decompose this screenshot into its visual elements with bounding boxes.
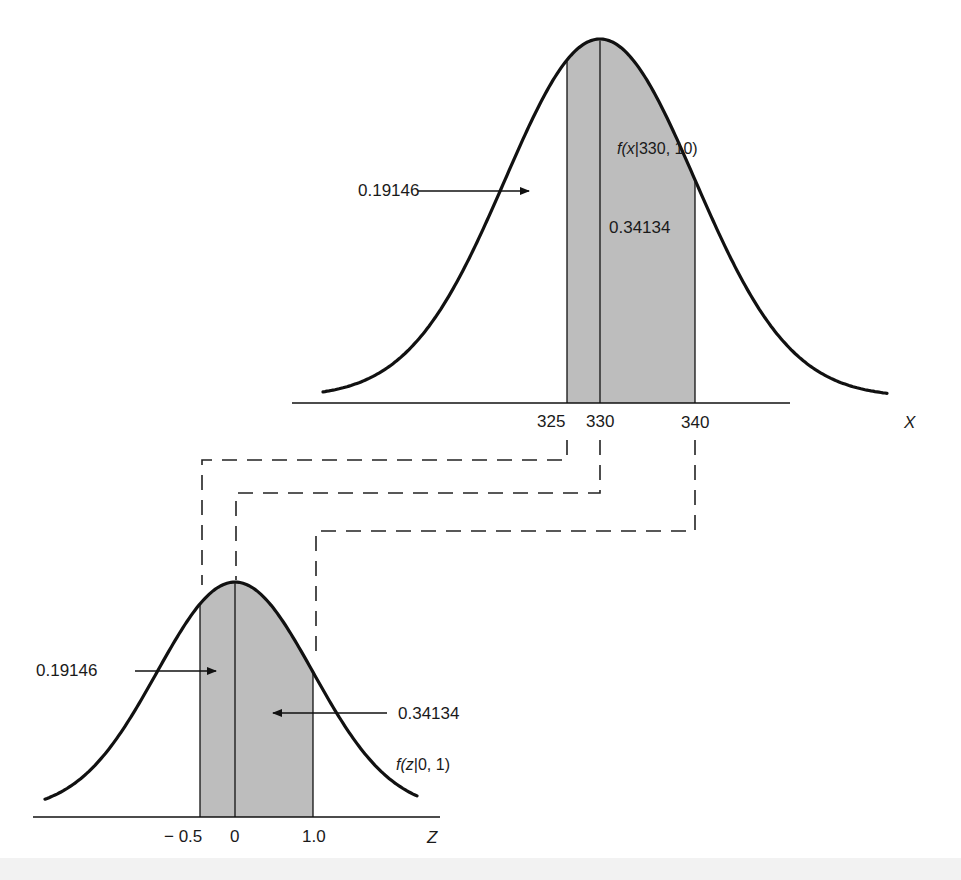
lower-title-params: |0, 1) bbox=[414, 756, 450, 773]
lower-title-func: f(z bbox=[396, 756, 414, 773]
lower-axis-label-z: Z bbox=[427, 828, 437, 848]
upper-tick-325: 325 bbox=[537, 412, 565, 432]
connector-340-to-1.0 bbox=[316, 440, 695, 660]
lower-shaded-area bbox=[200, 582, 313, 817]
lower-area-label-right: 0.34134 bbox=[398, 704, 459, 724]
upper-title-params: |330, 10) bbox=[635, 140, 698, 157]
upper-axis-label-x: X bbox=[904, 413, 915, 433]
connector-325-to-neg0.5 bbox=[202, 440, 567, 585]
upper-area-label-left: 0.19146 bbox=[358, 181, 419, 201]
lower-tick-1.0: 1.0 bbox=[302, 827, 326, 847]
upper-area-label-right: 0.34134 bbox=[609, 218, 670, 238]
upper-tick-340: 340 bbox=[681, 413, 709, 433]
lower-tick-neg0.5: − 0.5 bbox=[164, 827, 202, 847]
lower-area-label-left: 0.19146 bbox=[36, 661, 97, 681]
connector-330-to-0 bbox=[236, 440, 600, 580]
lower-distribution-title: f(z|0, 1) bbox=[396, 755, 450, 775]
upper-normal-plot bbox=[292, 39, 887, 403]
lower-normal-plot bbox=[33, 582, 440, 817]
upper-title-func: f(x bbox=[617, 140, 635, 157]
normal-standardization-diagram: 0.19146 0.34134 f(x|330, 10) 325 330 340… bbox=[0, 0, 961, 880]
diagram-canvas bbox=[0, 0, 961, 880]
upper-distribution-title: f(x|330, 10) bbox=[617, 139, 698, 159]
page-bottom-edge bbox=[0, 858, 961, 880]
upper-tick-330: 330 bbox=[586, 412, 614, 432]
lower-tick-0: 0 bbox=[230, 827, 239, 847]
